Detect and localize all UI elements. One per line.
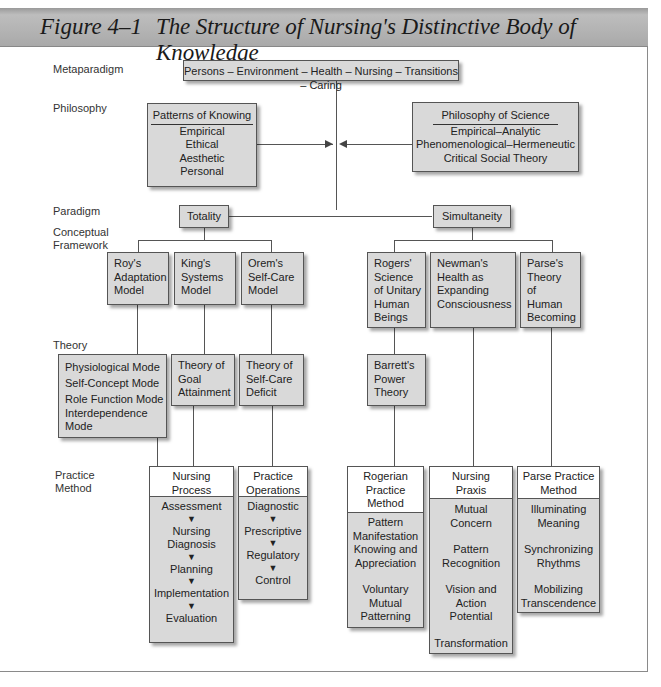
framework-text: Model	[181, 284, 235, 298]
simultaneity-box: Simultaneity	[433, 205, 511, 228]
framework-text: Beings	[374, 311, 425, 325]
level-label-line: Conceptual	[53, 226, 109, 239]
header-text: Process	[150, 484, 233, 498]
arrow-down-icon: ▼	[150, 552, 233, 563]
theory-barrett-box: Barrett's Power Theory	[367, 354, 426, 406]
theory-text: Barrett's	[374, 359, 425, 373]
theory-text: Attainment	[178, 386, 234, 400]
theory-text: Power	[374, 373, 425, 387]
connector-line	[137, 305, 138, 355]
theory-text: Theory of	[246, 359, 303, 373]
header-text: Rogerian	[348, 470, 423, 484]
connector-line	[472, 228, 473, 240]
framework-text: Orem's	[248, 257, 303, 271]
framework-text: Model	[248, 284, 303, 298]
connector-line	[271, 305, 272, 355]
connector-line	[552, 240, 553, 252]
step-text: Planning	[150, 563, 233, 577]
step-text: Regulatory	[239, 549, 307, 563]
practice-operations-box: Practice Operations Diagnostic ▼ Prescri…	[238, 466, 308, 600]
framework-parse-box: Parse's Theory of Human Becoming	[520, 252, 581, 328]
connector-line	[204, 228, 205, 240]
theory-text: Theory of	[178, 359, 234, 373]
header-text: Practice	[348, 484, 423, 498]
connector-line	[255, 144, 333, 145]
framework-text: Systems	[181, 271, 235, 285]
connector-line	[473, 328, 474, 467]
item-text: Recognition	[430, 557, 512, 571]
practice-rogerian-box: Rogerian Practice Method Pattern Manifes…	[347, 466, 424, 628]
connector-line	[193, 405, 194, 467]
theory-king-box: Theory of Goal Attainment	[171, 354, 235, 406]
level-label-line: Method	[55, 482, 95, 495]
level-label-philosophy: Philosophy	[53, 102, 107, 115]
item-text: Mutual	[430, 503, 512, 517]
step-text: Evaluation	[150, 612, 233, 626]
framework-rogers-box: Rogers' Science of Unitary Human Beings	[367, 252, 426, 328]
theory-text: Physiological Mode	[65, 359, 166, 375]
totality-label: Totality	[187, 210, 221, 222]
arrow-left-icon	[339, 140, 347, 148]
framework-text: Model	[114, 284, 168, 298]
connector-line	[394, 328, 395, 355]
practice-header: Nursing Process	[150, 467, 233, 497]
step-text: Prescriptive	[239, 525, 307, 539]
practice-header: Rogerian Practice Method	[348, 467, 423, 513]
practice-items: Pattern Manifestation Knowing and Apprec…	[348, 513, 423, 624]
framework-text: Human	[374, 298, 425, 312]
framework-text: Theory	[527, 271, 580, 285]
step-text: Implementation	[150, 587, 233, 601]
framework-text: Expanding	[437, 284, 515, 298]
header-text: Practice	[239, 470, 307, 484]
level-label-practice-method: Practice Method	[55, 469, 95, 495]
practice-nursing-process-box: Nursing Process Assessment ▼ Nursing Dia…	[149, 466, 234, 643]
framework-text: Self-Care	[248, 271, 303, 285]
framework-text: Becoming	[527, 311, 580, 325]
item-text: Mobilizing	[518, 583, 599, 597]
arrow-down-icon: ▼	[150, 514, 233, 525]
theory-text: Goal	[178, 373, 234, 387]
header-text: Nursing	[150, 470, 233, 484]
level-label-conceptual-framework: Conceptual Framework	[53, 226, 109, 252]
item-text: Action	[430, 597, 512, 611]
level-label-line: Practice	[55, 469, 95, 482]
arrow-down-icon: ▼	[239, 538, 307, 549]
framework-newman-box: Newman's Health as Expanding Consciousne…	[430, 252, 516, 328]
framework-text: Newman's	[437, 257, 515, 271]
practice-header: Practice Operations	[239, 467, 307, 497]
theory-text: Role Function Mode	[65, 391, 166, 407]
header-text: Parse Practice	[518, 470, 599, 484]
item-text: Transformation	[430, 637, 512, 651]
connector-line	[204, 305, 205, 355]
pattern-item: Aesthetic	[148, 152, 256, 166]
header-text: Praxis	[430, 484, 512, 498]
item-text: Manifestation	[348, 530, 423, 544]
practice-items: Illuminating Meaning Synchronizing Rhyth…	[518, 499, 599, 610]
framework-roy-box: Roy's Adaptation Model	[107, 252, 169, 305]
practice-steps: Diagnostic ▼ Prescriptive ▼ Regulatory ▼…	[239, 497, 307, 587]
item-text: Patterning	[348, 610, 423, 624]
item-text: Illuminating	[518, 503, 599, 517]
practice-steps: Assessment ▼ Nursing Diagnosis ▼ Plannin…	[150, 497, 233, 625]
item-text: Appreciation	[348, 557, 423, 571]
connector-line	[157, 437, 158, 467]
theory-text: Deficit	[246, 386, 303, 400]
item-text: Mutual	[348, 597, 423, 611]
connector-line	[138, 240, 139, 252]
connector-line	[271, 240, 272, 252]
theory-text: Self-Care	[246, 373, 303, 387]
connector-line	[394, 240, 552, 241]
arrow-right-icon	[325, 140, 333, 148]
pattern-item: Empirical	[148, 125, 256, 139]
item-text: Synchronizing	[518, 543, 599, 557]
simultaneity-label: Simultaneity	[442, 210, 502, 222]
connector-line	[394, 405, 395, 467]
item-text: Concern	[430, 517, 512, 531]
step-text: Control	[239, 574, 307, 588]
arrow-down-icon: ▼	[150, 576, 233, 587]
framework-text: King's	[181, 257, 235, 271]
connector-line	[342, 144, 412, 145]
connector-line	[551, 328, 552, 467]
framework-text: Roy's	[114, 257, 168, 271]
header-text: Operations	[239, 484, 307, 498]
